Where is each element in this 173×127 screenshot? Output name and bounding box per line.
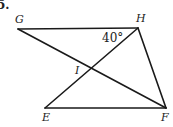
label-h: H bbox=[135, 12, 146, 25]
label-e: E bbox=[41, 111, 50, 124]
label-f: F bbox=[160, 111, 169, 124]
segment-gh bbox=[18, 28, 138, 29]
angle-h-measure: 40° bbox=[102, 31, 123, 45]
label-g: G bbox=[15, 13, 24, 26]
problem-number: 5. bbox=[0, 0, 10, 12]
segment-he bbox=[45, 28, 138, 108]
label-i: I bbox=[74, 64, 80, 77]
geometry-diagram: 5. G H I E F 40° bbox=[0, 0, 173, 127]
